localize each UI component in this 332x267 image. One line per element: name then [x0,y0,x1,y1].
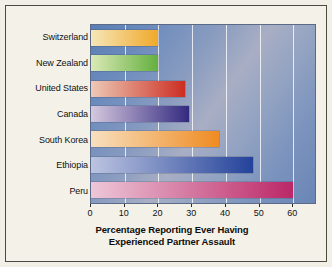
x-tick-label-40: 40 [220,208,230,218]
x-axis-title: Percentage Reporting Ever Having Experie… [32,224,312,248]
bar-row [91,81,315,97]
x-tick-mark-50 [259,204,260,207]
x-axis-title-line-1: Percentage Reporting Ever Having [32,224,312,236]
bar-series [91,25,315,203]
x-tick-mark-30 [191,204,192,207]
x-axis-title-line-2: Experienced Partner Assault [32,236,312,248]
bar-row [91,106,315,122]
x-axis: 0102030405060 [90,204,316,220]
x-tick-label-10: 10 [119,208,129,218]
bar-new-zealand[interactable] [91,55,158,71]
y-axis-label-ethiopia: Ethiopia [56,160,88,170]
y-axis-label-new-zealand: New Zealand [36,58,88,68]
bar-peru[interactable] [91,182,293,198]
y-axis-label-switzerland: Switzerland [43,32,88,42]
bar-united-states[interactable] [91,81,185,97]
x-tick-mark-20 [157,204,158,207]
bar-ethiopia[interactable] [91,157,253,173]
x-tick-mark-10 [124,204,125,207]
bar-row [91,30,315,46]
bar-south-korea[interactable] [91,131,219,147]
bar-row [91,157,315,173]
x-tick-label-60: 60 [287,208,297,218]
y-axis-label-south-korea: South Korea [39,135,88,145]
y-axis-label-united-states: United States [35,83,88,93]
bar-canada[interactable] [91,106,189,122]
x-tick-label-20: 20 [152,208,162,218]
x-tick-label-0: 0 [87,208,92,218]
x-tick-mark-0 [90,204,91,207]
bar-row [91,55,315,71]
plot-area [90,24,316,204]
chart-frame: Switzerland New Zealand United States Ca… [5,5,327,262]
y-axis-label-canada: Canada [57,109,88,119]
y-axis-label-peru: Peru [69,186,88,196]
bar-row [91,131,315,147]
bar-row [91,182,315,198]
bar-switzerland[interactable] [91,30,158,46]
x-tick-mark-40 [225,204,226,207]
x-tick-label-30: 30 [186,208,196,218]
chart-figure: Switzerland New Zealand United States Ca… [0,0,332,267]
x-tick-mark-60 [292,204,293,207]
y-axis-category-labels: Switzerland New Zealand United States Ca… [14,24,88,204]
x-tick-label-50: 50 [254,208,264,218]
